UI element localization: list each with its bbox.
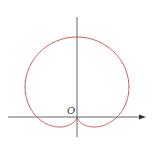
cardioid-diagram: O bbox=[0, 0, 160, 145]
origin-label: O bbox=[67, 105, 75, 116]
polar-axis-arrow-icon bbox=[139, 115, 146, 120]
